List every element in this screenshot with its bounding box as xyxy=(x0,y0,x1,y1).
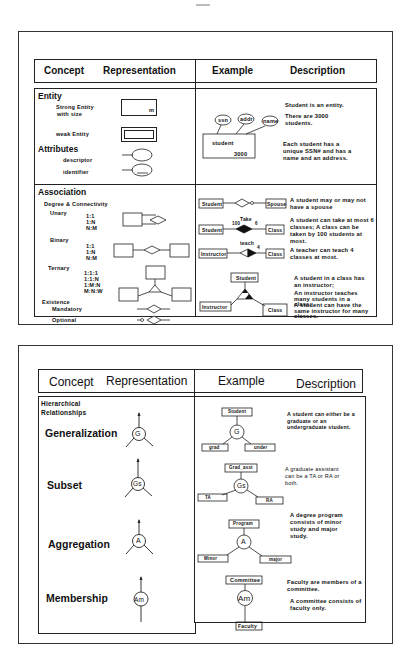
ex-member-symbol: Am xyxy=(238,594,250,603)
symbol-subset: Gs xyxy=(133,480,142,487)
agg-top-entity: Program xyxy=(233,521,253,526)
member-top-entity: Committee xyxy=(230,577,260,583)
gen-right-entity: under xyxy=(254,445,268,450)
agg-left-entity: Minor xyxy=(204,556,217,561)
subset-left-entity: TA xyxy=(205,495,211,500)
symbol-aggregation: A xyxy=(136,537,141,544)
agg-right-entity: major xyxy=(269,557,282,562)
subset-top-entity: Grad_asst xyxy=(229,465,253,470)
ex-agg-symbol: A xyxy=(241,538,246,545)
member-desc-1: Faculty are members of a committee. xyxy=(287,579,365,593)
member-bottom-entity: Faculty xyxy=(238,623,257,629)
gen-top-entity: Student xyxy=(228,409,246,414)
symbol-membership: Am xyxy=(134,596,144,603)
gen-desc: A student can either be a graduate or an… xyxy=(287,411,365,431)
symbol-generalization: G xyxy=(135,430,141,437)
ex-gen-symbol: G xyxy=(234,428,240,435)
member-desc-2: A committee consists of faculty only. xyxy=(290,598,368,612)
agg-desc: A degree program consists of minor study… xyxy=(290,512,355,540)
subset-right-entity: RA xyxy=(266,498,273,503)
gen-left-entity: grad xyxy=(209,445,220,450)
subset-desc: A graduate assistant can be a TA or RA o… xyxy=(285,466,345,487)
ex-subset-symbol: Gs xyxy=(237,482,246,489)
